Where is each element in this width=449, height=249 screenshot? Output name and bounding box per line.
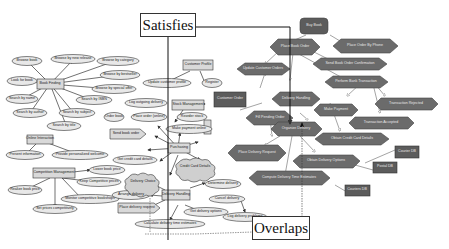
task-monitor-competitive: Monitor competitive bookshops	[65, 197, 115, 201]
task-place-order-online: Place order (online)	[133, 115, 164, 119]
goal-online-interaction: Online Interaction	[26, 137, 54, 141]
task-browse-bestseller: Browse by bestseller	[103, 73, 136, 77]
activity-fill-pending-order: Fill Pending Order	[256, 116, 285, 120]
activity-transaction-accepted: Transaction Accepted	[364, 121, 398, 125]
task-arrange-delivery: Arrange delivery	[118, 193, 144, 197]
task-search-isbn: Search by ISBN	[81, 98, 107, 102]
task-browse-special-offer: Browse by special offer	[95, 87, 132, 91]
activity-obtain-delivery-options: Obtain Delivery Options	[307, 159, 345, 163]
activity-buy-book: Buy Book	[306, 24, 321, 28]
activity-perform-bank-transaction: Perform Bank Transaction	[335, 80, 377, 84]
task-browse-new-release: Browse by new release	[54, 57, 91, 61]
goal-customer-profile: Customer Profile	[185, 63, 212, 67]
activity-obtain-credit-card: Obtain Credit Card Details	[331, 137, 373, 141]
data-courier-db: Courier DB	[398, 150, 416, 154]
task-search-title: Search by title	[53, 124, 76, 128]
task-update-profile: Update customer profile	[148, 81, 186, 85]
task-reorder-stock: Reorder stock	[181, 115, 203, 119]
task-log-outgoing: Log outgoing delivery	[129, 101, 163, 105]
goal-place-delivery-request: Place delivery request	[119, 206, 154, 210]
activity-place-order-phone: Place Order By Phone	[347, 44, 383, 48]
satisfies-callout: Satisfies	[140, 13, 196, 37]
goal-stock-management: Stock Management	[173, 103, 204, 107]
goal-book-finding: Book Finding	[40, 82, 61, 86]
task-set-prices: Set prices competitively	[36, 207, 74, 211]
activity-delivery-handling: Delivery Handling	[282, 97, 310, 101]
activity-send-order-confirmation: Send Book Order Confirmation	[325, 62, 374, 66]
task-look-for-book: Look for book	[11, 79, 33, 83]
task-personalized-welcome: Provide personalized welcome	[56, 153, 105, 157]
task-log-delivery-problems: Log delivery problems	[227, 215, 262, 219]
task-browse-book: Browse book	[17, 59, 38, 63]
task-get-credit-card: Get credit card details	[118, 158, 153, 162]
data-customer-order: Customer Order	[217, 97, 243, 101]
task-realize-price: Realize book price	[10, 188, 40, 192]
task-determine-delivery: Determine delivery	[208, 182, 238, 186]
activity-place-delivery-request: Place Delivery Request	[238, 151, 275, 155]
task-browse-category: Browse by category	[102, 59, 134, 63]
task-cancel-delivery: Cancel delivery	[215, 197, 240, 201]
task-present-information: Present information	[9, 153, 40, 157]
task-search-author: Search by author	[16, 111, 43, 115]
activity-place-book-order: Place Book Order	[281, 45, 309, 49]
task-keep-competitive: Keep Competitive prices	[80, 180, 119, 184]
activity-make-payment: Make Payment	[324, 108, 348, 112]
task-make-payment: Make payment online	[172, 127, 206, 131]
data-postal-db: Postal DB	[377, 165, 393, 169]
softgoal-delivery-choice: Delivery Choice	[130, 180, 155, 184]
goal-delivery-handling: Delivery Handling	[162, 193, 190, 197]
activity-organize-delivery: Organize Delivery	[282, 127, 311, 131]
activity-transaction-rejected: Transaction Rejected	[389, 102, 423, 106]
goal-purchasing: Purchasing	[170, 146, 188, 150]
goal-send-book-order: Send book order	[113, 132, 140, 136]
task-register: Register	[205, 81, 218, 85]
task-search-name: Search by name	[9, 97, 35, 101]
softgoal-credit-card-details: Credit Card Details	[180, 165, 210, 169]
goal-competition-management: Competition Management	[33, 171, 74, 175]
activity-compute-delivery-time: Compute Delivery Time Estimates	[262, 176, 316, 180]
task-search-subject: Search by subject	[63, 111, 92, 115]
task-calc-delivery-time: Calculate delivery time estimates	[144, 222, 197, 226]
task-order-book: Order book	[105, 115, 123, 119]
activity-update-customer-orders: Update Customer Orders	[243, 67, 283, 71]
task-get-delivery-options: Get delivery options	[190, 210, 222, 214]
overlaps-callout: Overlaps	[252, 216, 310, 240]
task-lower-price: Lower book price	[93, 168, 120, 172]
data-couriers-db: Couriers DB	[347, 188, 367, 192]
